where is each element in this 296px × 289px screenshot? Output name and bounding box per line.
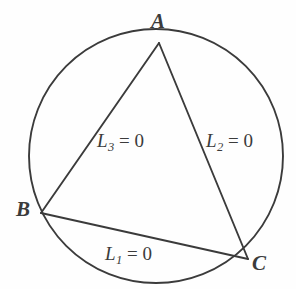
side-label-l3-subscript: 3 <box>108 140 114 154</box>
geometry-figure: A B C L3 = 0 L2 = 0 L1 = 0 <box>0 0 296 289</box>
side-label-l1-subscript: 1 <box>116 253 122 267</box>
side-label-l1-base: L <box>105 243 116 264</box>
vertex-label-c: C <box>252 253 266 274</box>
triangle-side-ac <box>159 43 248 259</box>
side-label-l3: L3 = 0 <box>97 131 144 150</box>
side-label-l2-base: L <box>206 130 217 151</box>
circumscribed-circle <box>29 29 283 283</box>
side-label-l1-value: = 0 <box>127 243 152 264</box>
side-label-l2-subscript: 2 <box>217 140 223 154</box>
vertex-label-b: B <box>16 199 30 220</box>
side-label-l1: L1 = 0 <box>105 244 152 263</box>
triangle-side-ab <box>41 43 159 213</box>
vertex-label-a: A <box>151 11 165 32</box>
side-label-l2-value: = 0 <box>228 130 253 151</box>
side-label-l2: L2 = 0 <box>206 131 253 150</box>
side-label-l3-base: L <box>97 130 108 151</box>
side-label-l3-value: = 0 <box>119 130 144 151</box>
